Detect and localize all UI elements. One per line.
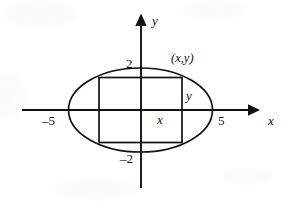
- y-tick-label-positive: 2: [126, 57, 133, 70]
- point-coordinate-label: (x,y): [171, 52, 194, 65]
- x-tick-label-negative: –5: [42, 114, 55, 127]
- y-tick-label-negative: –2: [120, 152, 133, 165]
- height-segment-label: y: [186, 89, 192, 102]
- x-axis-arrowhead: [248, 104, 260, 116]
- x-axis-name-label: x: [268, 114, 274, 127]
- ellipse-rectangle-figure: 2 –2 –5 5 x y (x,y) x y: [0, 0, 286, 203]
- y-axis-arrowhead: [135, 14, 146, 27]
- x-tick-label-positive: 5: [218, 114, 225, 127]
- figure-canvas: [0, 0, 286, 203]
- y-axis-name-label: y: [152, 14, 158, 27]
- width-segment-label: x: [157, 113, 163, 126]
